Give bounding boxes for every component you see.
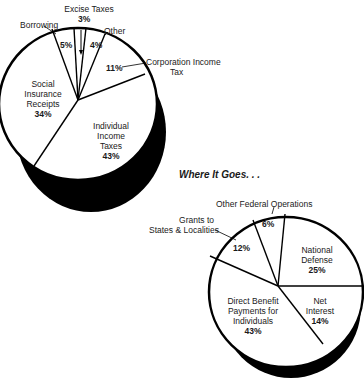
direct-label-line3: Individuals <box>218 316 288 326</box>
indiv-label-line2: Income <box>86 131 136 141</box>
grants-label-line2: States & Localities <box>149 225 219 235</box>
ofo-label: Other Federal Operations <box>216 199 312 209</box>
social-label-line1: Social <box>18 79 68 89</box>
corp-pct: 11% <box>106 63 123 73</box>
other-pct: 4% <box>90 40 102 50</box>
pie2-face <box>209 217 363 367</box>
indiv-label-line3: Taxes <box>86 141 136 151</box>
indiv-pct: 43% <box>86 151 136 161</box>
social-label-line3: Receipts <box>18 99 68 109</box>
other-label: Other <box>104 26 125 36</box>
corp-label-line1: Corporation Income <box>146 57 221 67</box>
direct-label-line2: Payments for <box>218 306 288 316</box>
excise-pct: 3% <box>78 14 90 24</box>
corp-label-line2: Tax <box>170 67 183 77</box>
grants-pct: 12% <box>233 243 250 253</box>
interest-label-line1: Net <box>300 296 340 306</box>
indiv-label-line1: Individual <box>86 121 136 131</box>
excise-label: Excise Taxes <box>64 4 114 14</box>
social-label-line2: Insurance <box>18 89 68 99</box>
defense-label-line2: Defense <box>292 255 342 265</box>
direct-label-line1: Direct Benefit <box>218 296 288 306</box>
defense-label-line1: National <box>292 245 342 255</box>
defense-pct: 25% <box>292 265 342 275</box>
borrowing-label: Borrowing <box>20 20 58 30</box>
interest-pct: 14% <box>300 316 340 326</box>
ofo-pct: 6% <box>262 219 274 229</box>
direct-pct: 43% <box>218 326 288 336</box>
where-it-goes-title: Where It Goes. . . <box>179 169 260 180</box>
interest-label-line2: Interest <box>300 306 340 316</box>
borrowing-pct: 5% <box>60 40 72 50</box>
social-pct: 34% <box>18 109 68 119</box>
grants-label-line1: Grants to <box>156 215 214 225</box>
